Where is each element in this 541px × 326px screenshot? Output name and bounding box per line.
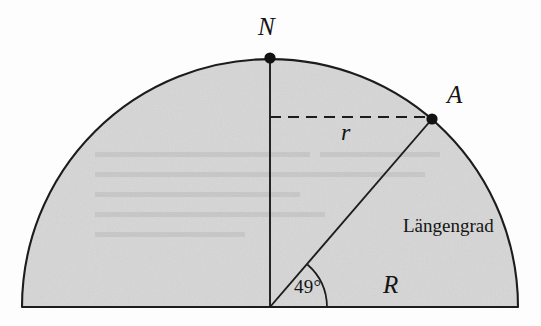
north-pole-dot — [264, 52, 275, 63]
small-radius-label: r — [341, 120, 350, 144]
longitude-label: Längengrad — [403, 216, 494, 235]
point-a-dot — [426, 113, 437, 124]
large-radius-label: R — [383, 272, 398, 297]
semicircle-diagram-svg — [0, 0, 541, 326]
geometry-figure: N A r R 49° Längengrad — [0, 0, 541, 326]
point-a-label: A — [447, 82, 462, 107]
north-pole-label: N — [258, 14, 275, 39]
angle-value-label: 49° — [294, 277, 321, 296]
